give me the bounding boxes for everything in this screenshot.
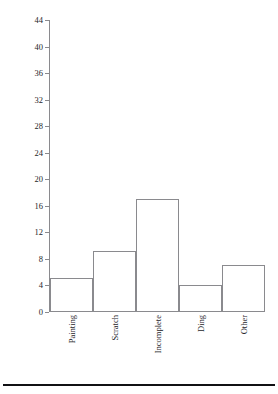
page-divider-rule (3, 384, 275, 386)
y-axis-tick-label: 20 (35, 175, 44, 184)
x-axis-category-cell: Painting (50, 313, 93, 383)
x-axis-category-cell: Incomplete (136, 313, 179, 383)
y-axis-tick (45, 20, 49, 21)
bar-other (222, 265, 265, 311)
x-axis-label-ding: Ding (196, 315, 205, 332)
bar-scratch (93, 251, 136, 311)
y-axis-tick (45, 47, 49, 48)
y-axis-tick (45, 153, 49, 154)
y-axis-tick-label: 0 (39, 308, 43, 317)
bar-cell (50, 20, 93, 311)
x-axis-category-cell: Scratch (93, 313, 136, 383)
bar-ding (179, 285, 222, 311)
y-axis-tick (45, 179, 49, 180)
bar-cell (93, 20, 136, 311)
x-axis-label-incomplete: Incomplete (153, 315, 162, 353)
x-axis-category-cell: Ding (179, 313, 222, 383)
y-axis-tick-label: 44 (35, 16, 44, 25)
y-axis-tick-label: 28 (35, 122, 44, 131)
x-axis-line (49, 311, 265, 312)
bar-painting (50, 278, 93, 311)
y-axis-tick-label: 40 (35, 42, 44, 51)
y-axis-tick (45, 232, 49, 233)
x-axis-label-other: Other (239, 315, 248, 334)
bar-cell (136, 20, 179, 311)
y-axis-tick (45, 206, 49, 207)
y-axis-tick-label: 4 (39, 281, 43, 290)
bar-incomplete (136, 199, 179, 311)
bar-group (50, 20, 265, 311)
y-axis-tick-label: 8 (39, 255, 43, 264)
y-axis-tick (45, 285, 49, 286)
y-axis-tick (45, 100, 49, 101)
y-axis-tick-label: 12 (35, 228, 44, 237)
y-axis-tick (45, 259, 49, 260)
defects-bar-chart-figure: Number of Defects 048121620242832364044 … (0, 0, 278, 394)
y-axis-tick-label: 32 (35, 95, 44, 104)
x-axis-category-cell: Other (222, 313, 265, 383)
bar-cell (179, 20, 222, 311)
y-axis-tick-label: 16 (35, 202, 44, 211)
y-axis-tick (45, 126, 49, 127)
x-axis-category-labels: PaintingScratchIncompleteDingOther (50, 313, 265, 383)
y-axis-tick-label: 24 (35, 148, 44, 157)
y-axis-tick (45, 73, 49, 74)
x-axis-label-painting: Painting (67, 315, 76, 343)
bar-cell (222, 20, 265, 311)
plot-area: 048121620242832364044 (49, 20, 265, 312)
x-axis-label-scratch: Scratch (110, 315, 119, 341)
y-axis-tick (45, 312, 49, 313)
y-axis-tick-label: 36 (35, 69, 44, 78)
